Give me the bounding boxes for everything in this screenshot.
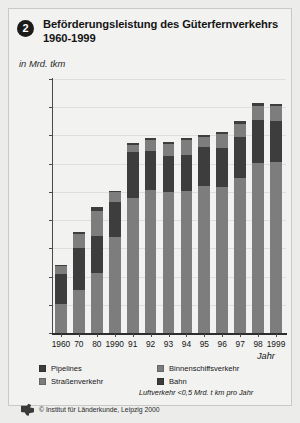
bar-segment-bahn bbox=[270, 121, 282, 162]
legend-swatch-icon bbox=[39, 365, 46, 372]
bar-segment-binnenschiffsverkehr bbox=[127, 145, 139, 152]
x-axis-tick bbox=[169, 334, 170, 337]
chart-footer: © Institut für Länderkunde, Leipzig 2000 bbox=[21, 403, 160, 416]
bar-70 bbox=[73, 232, 85, 333]
legend-item-binnenschiffsverkehr: Binnenschiffsverkehr bbox=[157, 364, 275, 373]
x-axis-tick-label: 97 bbox=[236, 339, 245, 349]
bar-segment-bahn bbox=[145, 151, 157, 191]
x-axis-tick-label: 1960 bbox=[52, 339, 71, 349]
x-axis-tick bbox=[151, 334, 152, 337]
chart-plot-area: 050100150200250300350400450 196070801990… bbox=[9, 9, 293, 407]
x-axis-tick-label: 70 bbox=[74, 339, 83, 349]
legend-label: Straßenverkehr bbox=[51, 377, 103, 386]
x-axis-tick-label: 91 bbox=[128, 339, 137, 349]
bar-segment-bahn bbox=[127, 152, 139, 198]
bar-segment-bahn bbox=[109, 202, 121, 237]
x-axis-title: Jahr bbox=[257, 351, 275, 361]
legend-item-strassenverkehr: Straßenverkehr bbox=[39, 377, 157, 386]
bar-segment-bahn bbox=[73, 248, 85, 290]
x-axis-tick-label: 1990 bbox=[105, 339, 124, 349]
bar-segment-binnenschiffsverkehr bbox=[73, 234, 85, 248]
bar-segment-binnenschiffsverkehr bbox=[109, 192, 121, 202]
bar-segment-straßenverkehr bbox=[145, 190, 157, 333]
bar-segment-binnenschiffsverkehr bbox=[270, 106, 282, 121]
x-axis-tick bbox=[204, 334, 205, 337]
bar-segment-bahn bbox=[181, 155, 193, 192]
bar-segment-binnenschiffsverkehr bbox=[163, 144, 175, 156]
legend-label: Binnenschiffsverkehr bbox=[169, 364, 239, 373]
bar-92 bbox=[145, 138, 157, 333]
bar-93 bbox=[163, 142, 175, 333]
bar-segment-binnenschiffsverkehr bbox=[55, 266, 67, 273]
bar-segment-binnenschiffsverkehr bbox=[198, 137, 210, 148]
x-axis-tick bbox=[61, 334, 62, 337]
bar-segment-straßenverkehr bbox=[270, 162, 282, 333]
x-axis-tick-label: 92 bbox=[146, 339, 155, 349]
bar-segment-binnenschiffsverkehr bbox=[181, 140, 193, 155]
x-axis-tick-label: 94 bbox=[182, 339, 191, 349]
bar-segment-bahn bbox=[198, 147, 210, 185]
legend-row: Pipelines Binnenschiffsverkehr bbox=[39, 363, 285, 374]
x-axis-tick bbox=[186, 334, 187, 337]
x-axis-tick bbox=[79, 334, 80, 337]
bar-segment-binnenschiffsverkehr bbox=[252, 106, 264, 121]
bar-segment-straßenverkehr bbox=[73, 290, 85, 333]
bar-1960 bbox=[55, 265, 67, 333]
bar-segment-straßenverkehr bbox=[163, 192, 175, 333]
legend-swatch-icon bbox=[157, 378, 164, 385]
bar-segment-straßenverkehr bbox=[127, 198, 139, 333]
institute-logo-icon bbox=[21, 403, 34, 416]
bar-segment-bahn bbox=[163, 156, 175, 192]
chart-card: 2 Beförderungsleistung des Güterfernverk… bbox=[8, 8, 292, 406]
x-axis-tick-label: 96 bbox=[218, 339, 227, 349]
legend-label: Bahn bbox=[169, 377, 187, 386]
bar-segment-bahn bbox=[55, 274, 67, 304]
legend-row: Straßenverkehr Bahn bbox=[39, 376, 285, 387]
legend-label: Pipelines bbox=[51, 364, 82, 373]
y-axis-labels: 050100150200250300350400450 bbox=[9, 9, 51, 407]
bar-segment-binnenschiffsverkehr bbox=[216, 134, 228, 148]
x-axis-tick-label: 1999 bbox=[267, 339, 286, 349]
legend-footnote: Luftverkehr <0,5 Mrd. t km pro Jahr bbox=[139, 388, 253, 397]
x-axis-tick-label: 98 bbox=[253, 339, 262, 349]
copyright-text: © Institut für Länderkunde, Leipzig 2000 bbox=[39, 406, 160, 413]
x-axis-tick bbox=[222, 334, 223, 337]
x-axis-tick bbox=[97, 334, 98, 337]
bar-94 bbox=[181, 138, 193, 333]
bar-95 bbox=[198, 135, 210, 333]
bar-segment-bahn bbox=[252, 120, 264, 162]
legend-swatch-icon bbox=[157, 365, 164, 372]
x-axis-tick bbox=[276, 334, 277, 337]
bar-segment-bahn bbox=[234, 137, 246, 178]
x-axis-tick-label: 80 bbox=[92, 339, 101, 349]
bar-segment-bahn bbox=[216, 148, 228, 188]
bar-segment-straßenverkehr bbox=[55, 304, 67, 333]
bar-80 bbox=[91, 207, 103, 333]
bar-segment-straßenverkehr bbox=[109, 237, 121, 333]
x-axis-tick bbox=[133, 334, 134, 337]
x-axis-tick bbox=[240, 334, 241, 337]
bar-segment-binnenschiffsverkehr bbox=[91, 211, 103, 236]
bar-1999 bbox=[270, 104, 282, 333]
screenshot-root: 2 Beförderungsleistung des Güterfernverk… bbox=[0, 0, 300, 423]
x-axis-tick-label: 93 bbox=[164, 339, 173, 349]
bar-97 bbox=[234, 121, 246, 333]
bar-segment-straßenverkehr bbox=[91, 273, 103, 333]
bar-segment-binnenschiffsverkehr bbox=[145, 140, 157, 151]
bar-segment-straßenverkehr bbox=[181, 191, 193, 333]
bar-1990 bbox=[109, 191, 121, 333]
chart-legend: Pipelines Binnenschiffsverkehr Straßenve… bbox=[39, 363, 285, 389]
bar-segment-straßenverkehr bbox=[198, 186, 210, 333]
bar-98 bbox=[252, 103, 264, 333]
legend-item-pipelines: Pipelines bbox=[39, 364, 157, 373]
bar-segment-straßenverkehr bbox=[234, 178, 246, 333]
bar-series-layer bbox=[52, 79, 285, 333]
x-axis-tick bbox=[115, 334, 116, 337]
bar-segment-straßenverkehr bbox=[252, 163, 264, 333]
legend-item-bahn: Bahn bbox=[157, 377, 275, 386]
bar-segment-straßenverkehr bbox=[216, 187, 228, 333]
bar-91 bbox=[127, 143, 139, 333]
bar-96 bbox=[216, 132, 228, 333]
bar-segment-binnenschiffsverkehr bbox=[234, 124, 246, 137]
x-axis-tick bbox=[258, 334, 259, 337]
